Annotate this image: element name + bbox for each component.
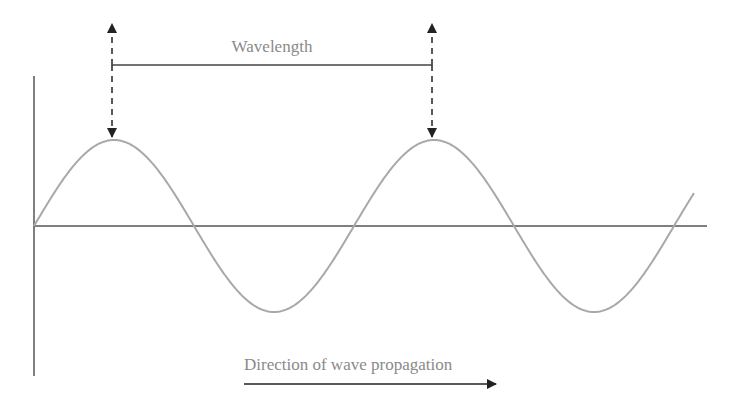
wavelength-label: Wavelength [232, 37, 313, 56]
wave-diagram: Wavelength Direction of wave propagation [0, 0, 737, 402]
direction-label: Direction of wave propagation [244, 355, 453, 374]
